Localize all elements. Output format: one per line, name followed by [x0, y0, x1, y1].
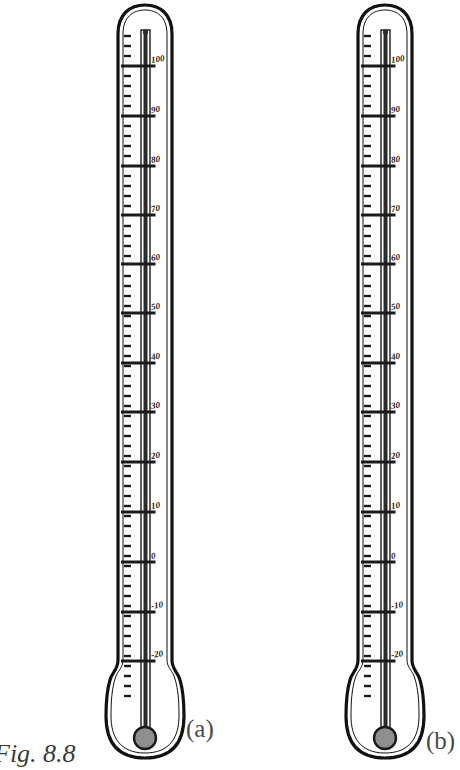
scale-label: -10 [150, 599, 164, 611]
scale-label: -20 [390, 648, 404, 660]
scale-label: -10 [390, 599, 404, 611]
mercury-thread-a [144, 32, 148, 738]
thermometer-b: 1009080706050403020100-10-20 [346, 5, 424, 758]
bulb-b [374, 727, 396, 749]
panel-label-a: (a) [186, 715, 214, 743]
bulb-a [134, 727, 156, 749]
mercury-thread-b [384, 32, 388, 738]
mercury-meniscus-a [143, 29, 148, 34]
panel-label-b: (b) [426, 727, 455, 755]
figure-caption: Fig. 8.8 [0, 739, 76, 768]
mercury-meniscus-b [383, 29, 388, 34]
thermometer-figure: 1009080706050403020100-10-20 10090807060… [0, 0, 460, 770]
thermometer-a: 1009080706050403020100-10-20 [106, 5, 184, 758]
figure-root: 1009080706050403020100-10-20 10090807060… [0, 0, 460, 770]
scale-label: -20 [150, 648, 164, 660]
